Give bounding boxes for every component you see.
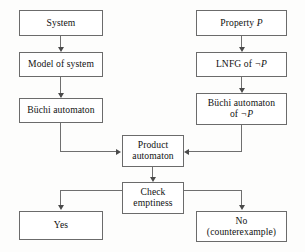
edge-buchineg-to-product-vline: [241, 125, 242, 151]
node-no-counterexample-label: No (counterexample): [197, 216, 286, 237]
node-buchi-automaton[interactable]: Büchi automaton: [19, 98, 103, 123]
node-model-of-system-label: Model of system: [20, 59, 102, 70]
node-product-automaton[interactable]: Product automaton: [122, 135, 184, 167]
node-model-of-system[interactable]: Model of system: [19, 52, 103, 77]
node-no-line1: No: [199, 216, 284, 227]
node-check-emptiness-label: Check emptiness: [123, 187, 183, 208]
node-check-emptiness[interactable]: Check emptiness: [122, 182, 184, 214]
node-lnfg[interactable]: LNFG of ¬P: [196, 52, 287, 77]
node-check-emptiness-line2: emptiness: [125, 198, 181, 209]
edge-check-to-no-arrow: [239, 205, 245, 210]
node-lnfg-prefix: LNFG of: [216, 58, 255, 69]
flowchart-canvas: System Model of system Büchi automaton P…: [0, 0, 305, 252]
node-product-automaton-line2: automaton: [125, 151, 181, 162]
node-system-label: System: [20, 18, 102, 29]
node-system[interactable]: System: [19, 10, 103, 36]
edge-buchineg-to-product-arrow: [184, 149, 189, 155]
edge-check-to-yes-hline: [60, 190, 122, 191]
edge-buchi-to-product-arrow: [116, 149, 121, 155]
node-buchi-automaton-neg-line2-prefix: of: [230, 108, 241, 119]
node-property-p-label: Property P: [197, 18, 286, 29]
node-yes-label: Yes: [20, 220, 102, 231]
node-buchi-automaton-label: Büchi automaton: [20, 105, 102, 116]
node-no-line2: (counterexample): [199, 227, 284, 238]
node-property-p[interactable]: Property P: [196, 10, 287, 36]
node-buchi-automaton-neg[interactable]: Büchi automaton of ¬P: [196, 93, 287, 125]
edge-buchineg-to-product-hline: [189, 151, 242, 152]
node-yes[interactable]: Yes: [19, 211, 103, 240]
edge-check-to-no-hline: [184, 190, 242, 191]
node-property-p-prefix: Property: [220, 17, 256, 28]
node-buchi-automaton-neg-line2-symbol: ¬P: [241, 108, 254, 119]
node-buchi-automaton-neg-label: Büchi automaton of ¬P: [197, 98, 286, 119]
node-lnfg-symbol: ¬P: [255, 58, 268, 69]
node-no-counterexample[interactable]: No (counterexample): [196, 211, 287, 242]
edge-buchi-to-product-vline: [60, 123, 61, 151]
node-property-p-symbol: P: [257, 17, 263, 28]
edge-buchi-to-product-hline: [60, 151, 117, 152]
node-product-automaton-label: Product automaton: [123, 140, 183, 161]
node-buchi-automaton-neg-line2: of ¬P: [199, 109, 284, 120]
edge-check-to-yes-arrow: [58, 205, 64, 210]
node-lnfg-label: LNFG of ¬P: [197, 59, 286, 70]
